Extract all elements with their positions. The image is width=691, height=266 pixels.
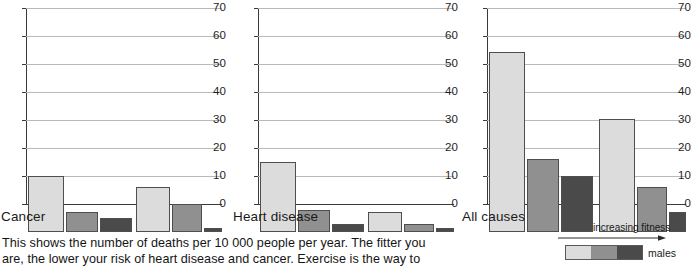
- caption-line-1: This shows the number of deaths per 10 0…: [2, 236, 422, 252]
- y-axis-tick-10: 10: [671, 170, 691, 182]
- chart-panel-all-causes: 70 60 50 40 30 20 10 0 All causes: [461, 0, 691, 232]
- gridline-50: [26, 64, 222, 65]
- y-axis-tick-20: 20: [671, 142, 691, 154]
- y-axis-tick-50: 50: [206, 58, 226, 70]
- y-axis-tick-40: 40: [206, 86, 226, 98]
- tick-mark-60: [483, 36, 487, 37]
- gridline-40: [258, 92, 454, 93]
- tick-mark-20: [483, 148, 487, 149]
- legend-gradient-swatch: [565, 245, 643, 260]
- tick-mark-10: [483, 176, 487, 177]
- y-axis-tick-0: 0: [206, 198, 226, 210]
- bar-heart-g1-high: [332, 224, 364, 232]
- tick-mark-50: [483, 64, 487, 65]
- y-axis-tick-40: 40: [438, 86, 458, 98]
- gridline-50: [258, 64, 454, 65]
- chart-caption: This shows the number of deaths per 10 0…: [2, 236, 422, 266]
- tick-mark-10: [22, 176, 26, 177]
- tick-mark-20: [254, 148, 258, 149]
- chart-panel-cancer: 70 60 50 40 30 20 10 0 Cancer: [0, 0, 226, 232]
- gridline-60: [26, 36, 222, 37]
- legend-swatch-low: [566, 246, 591, 259]
- legend-swatch-high: [617, 246, 642, 259]
- caption-line-2: are, the lower your risk of heart diseas…: [2, 252, 422, 266]
- gridline-70: [26, 8, 222, 9]
- increasing-arrow-icon: [558, 235, 666, 242]
- tick-mark-60: [254, 36, 258, 37]
- gridline-60: [487, 36, 686, 37]
- bar-cancer-g2-low: [136, 187, 170, 232]
- tick-mark-40: [483, 92, 487, 93]
- bar-cancer-g1-medium: [66, 212, 98, 232]
- tick-mark-70: [22, 8, 26, 9]
- tick-mark-30: [22, 120, 26, 121]
- gridline-20: [26, 148, 222, 149]
- tick-mark-50: [254, 64, 258, 65]
- bar-heart-g2-low: [368, 212, 402, 232]
- y-axis-tick-30: 30: [438, 114, 458, 126]
- tick-mark-50: [22, 64, 26, 65]
- tick-mark-40: [22, 92, 26, 93]
- panel-label-all-causes: All causes: [462, 210, 525, 224]
- legend-series-label: males: [648, 248, 676, 259]
- tick-mark-40: [254, 92, 258, 93]
- y-axis-tick-20: 20: [206, 142, 226, 154]
- bar-cancer-g2-medium: [172, 204, 202, 232]
- y-axis-tick-50: 50: [671, 58, 691, 70]
- tick-mark-10: [254, 176, 258, 177]
- tick-mark-30: [483, 120, 487, 121]
- bar-all-g2-low: [599, 119, 635, 232]
- panel-label-cancer: Cancer: [1, 210, 45, 224]
- bar-cancer-g1-high: [100, 218, 132, 232]
- gridline-70: [487, 8, 686, 9]
- tick-mark-0: [254, 204, 258, 205]
- y-axis-tick-50: 50: [438, 58, 458, 70]
- y-axis-tick-0: 0: [671, 198, 691, 210]
- y-axis-tick-60: 60: [438, 30, 458, 42]
- gridline-20: [258, 148, 454, 149]
- bar-all-g1-low: [489, 52, 525, 232]
- bar-cancer-g2-high: [204, 228, 222, 232]
- tick-mark-60: [22, 36, 26, 37]
- tick-mark-30: [254, 120, 258, 121]
- y-axis-tick-0: 0: [438, 198, 458, 210]
- gridline-30: [26, 120, 222, 121]
- y-axis-tick-70: 70: [206, 2, 226, 14]
- gridline-30: [258, 120, 454, 121]
- gridline-70: [258, 8, 454, 9]
- y-axis-tick-70: 70: [438, 2, 458, 14]
- panel-label-heart-disease: Heart disease: [233, 210, 318, 224]
- y-axis-tick-40: 40: [671, 86, 691, 98]
- gridline-60: [258, 36, 454, 37]
- tick-mark-70: [254, 8, 258, 9]
- y-axis-tick-60: 60: [206, 30, 226, 42]
- bar-heart-g2-high: [436, 228, 454, 232]
- gridline-40: [26, 92, 222, 93]
- legend-title: increasing fitness: [593, 222, 670, 233]
- tick-mark-0: [483, 204, 487, 205]
- chart-panel-heart-disease: 70 60 50 40 30 20 10 0 Heart disease: [232, 0, 458, 232]
- tick-mark-0: [22, 204, 26, 205]
- y-axis-tick-70: 70: [671, 2, 691, 14]
- y-axis-tick-30: 30: [206, 114, 226, 126]
- y-axis-tick-10: 10: [206, 170, 226, 182]
- legend-swatch-medium: [591, 246, 616, 259]
- y-axis-tick-60: 60: [671, 30, 691, 42]
- bar-heart-g2-medium: [404, 224, 434, 232]
- y-axis-tick-10: 10: [438, 170, 458, 182]
- bar-all-g1-medium: [527, 159, 559, 232]
- y-axis-tick-20: 20: [438, 142, 458, 154]
- chart-legend: increasing fitness males: [556, 222, 691, 264]
- tick-mark-70: [483, 8, 487, 9]
- tick-mark-20: [22, 148, 26, 149]
- y-axis-tick-30: 30: [671, 114, 691, 126]
